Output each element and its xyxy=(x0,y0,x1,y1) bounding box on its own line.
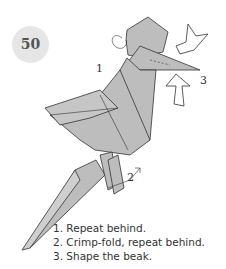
callout-2: 2 xyxy=(127,171,134,184)
callout-3: 3 xyxy=(200,74,207,87)
callout-1: 1 xyxy=(96,62,103,75)
instruction-1: 1. Repeat behind. xyxy=(53,221,205,235)
instructions-list: 1. Repeat behind. 2. Crimp-fold, repeat … xyxy=(53,221,205,263)
instruction-3: 3. Shape the beak. xyxy=(53,249,205,263)
push-arrow-up-icon xyxy=(166,74,190,106)
push-arrow-top-icon xyxy=(176,24,208,54)
instruction-2: 2. Crimp-fold, repeat behind. xyxy=(53,235,205,249)
repeat-behind-arrow xyxy=(112,36,126,49)
